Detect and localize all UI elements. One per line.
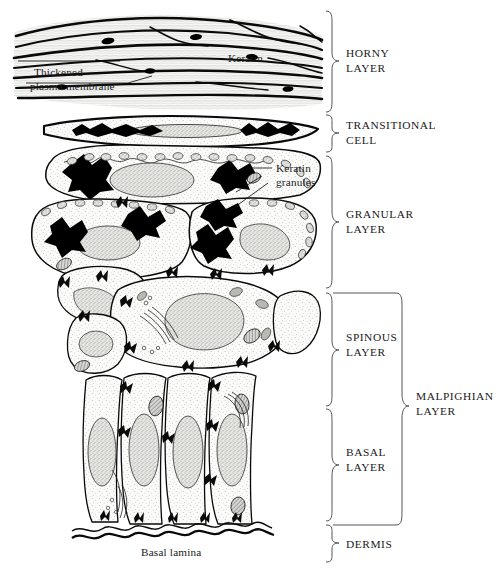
layer-label-horny-line2: LAYER <box>346 62 386 74</box>
layer-label-text: HORNY LAYER TRANSITIONAL CELL GRANULAR L… <box>346 47 494 550</box>
label-thickened-line2: plasma membrane <box>30 80 115 92</box>
layer-label-transitional-line1: TRANSITIONAL <box>346 119 436 131</box>
spinous-layer-group <box>58 266 321 373</box>
basal-layer-group <box>83 372 256 524</box>
layer-label-spinous-line1: SPINOUS <box>346 331 397 343</box>
layer-label-basal-line1: BASAL <box>346 446 386 458</box>
brace-dermis <box>326 525 339 562</box>
brace-horny <box>326 11 339 112</box>
spinous-cell-right <box>273 291 320 353</box>
label-keratin-granules-line2: granules <box>276 176 316 188</box>
label-keratin-granules-line1: Keratin <box>276 162 311 174</box>
layer-label-horny-line1: HORNY <box>346 47 389 59</box>
basal-cell-4-nucleus <box>217 414 247 486</box>
basal-cell-3-nucleus <box>173 416 203 488</box>
layer-label-transitional-line2: CELL <box>346 134 377 146</box>
label-basal-lamina: Basal lamina <box>141 546 202 558</box>
layer-label-granular-line2: LAYER <box>346 223 386 235</box>
transitional-cell-group <box>44 116 318 147</box>
basal-cell-2-nucleus <box>129 414 159 486</box>
granular-upper-nucleus <box>110 163 194 197</box>
brace-malpighian <box>396 293 409 525</box>
basal-lamina-lower-line <box>72 529 274 538</box>
layer-label-malpighian-line2: LAYER <box>416 405 456 417</box>
transitional-keratohyalin-right <box>240 122 300 137</box>
diagram-canvas: Keratin Thickened plasma membrane Kerati… <box>0 0 498 571</box>
horny-layer-group <box>14 15 322 110</box>
label-thickened-line1: Thickened <box>34 66 83 78</box>
brace-basal <box>326 409 339 521</box>
layer-label-malpighian-line1: MALPIGHIAN <box>416 390 494 402</box>
layer-label-spinous-line2: LAYER <box>346 346 386 358</box>
spinous-center-nucleus <box>165 294 244 350</box>
label-keratin: Keratin <box>228 52 263 64</box>
brace-spinous <box>326 293 339 406</box>
epidermis-diagram: Keratin Thickened plasma membrane Kerati… <box>0 0 498 571</box>
brace-transitional <box>326 115 339 152</box>
layer-label-basal-line2: LAYER <box>346 461 386 473</box>
basal-cell-1-nucleus <box>88 418 116 486</box>
brace-granular <box>326 156 339 288</box>
layer-braces <box>326 11 409 562</box>
layer-label-dermis: DERMIS <box>346 538 392 550</box>
spinous-lower-left-nucleus <box>79 331 113 357</box>
layer-label-granular-line1: GRANULAR <box>346 208 414 220</box>
